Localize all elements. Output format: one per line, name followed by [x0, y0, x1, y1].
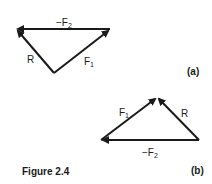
vector-f1-b	[101, 99, 155, 140]
panel-a-triangle	[18, 29, 110, 73]
panel-tag-b: (b)	[191, 166, 204, 176]
label-r-b: R	[181, 109, 188, 119]
label-f1-a: F1	[84, 57, 94, 67]
panel-b-triangle	[101, 99, 199, 140]
label-f1-b: F1	[119, 108, 129, 118]
panel-tag-a: (a)	[187, 67, 199, 77]
label-neg-f2-a: −F2	[56, 18, 72, 28]
vector-f1-a	[54, 31, 108, 73]
label-neg-f2-b: −F2	[142, 148, 158, 158]
vector-r-a	[18, 31, 54, 73]
label-r-a: R	[27, 55, 34, 65]
vector-r-b	[159, 99, 199, 140]
figure-caption: Figure 2.4	[22, 167, 69, 177]
vector-diagram	[0, 0, 212, 184]
